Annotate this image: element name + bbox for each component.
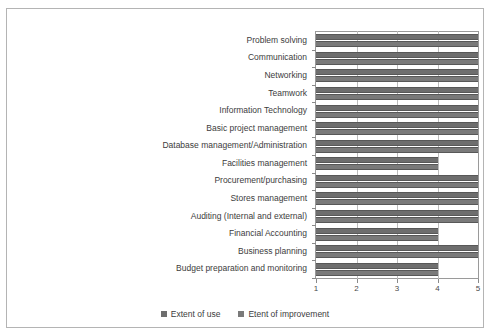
- bar: [316, 182, 478, 188]
- category-label: Networking: [264, 70, 307, 80]
- category-label: Information Technology: [219, 105, 307, 115]
- bar: [316, 199, 478, 205]
- bar-group: [316, 190, 478, 208]
- bar-rows: [316, 32, 478, 278]
- legend-swatch-icon: [238, 311, 244, 317]
- bar-group: [316, 225, 478, 243]
- bar-group: [316, 260, 478, 278]
- bar-group: [316, 32, 478, 50]
- chart-screenshot: Problem solvingCommunicationNetworkingTe…: [0, 0, 490, 336]
- category-label: Budget preparation and monitoring: [176, 263, 307, 273]
- x-axis-tick: [357, 279, 358, 283]
- category-label: Stores management: [230, 193, 307, 203]
- x-axis-tick-label: 1: [314, 284, 318, 293]
- chart-legend: Extent of useEtent of improvement: [7, 309, 483, 319]
- category-label: Database management/Administration: [162, 140, 307, 150]
- bar: [316, 147, 478, 153]
- category-label: Basic project management: [206, 123, 307, 133]
- x-axis-tick: [478, 279, 479, 283]
- bar-group: [316, 208, 478, 226]
- bar-group: [316, 243, 478, 261]
- x-axis-tick-label: 5: [476, 284, 480, 293]
- category-label: Communication: [248, 52, 307, 62]
- category-label: Teamwork: [268, 88, 307, 98]
- x-axis-tick: [316, 279, 317, 283]
- figure-frame: Problem solvingCommunicationNetworkingTe…: [6, 8, 484, 328]
- legend-label: Extent of use: [171, 309, 221, 319]
- bar: [316, 112, 478, 118]
- bar-group: [316, 102, 478, 120]
- x-axis-tick: [438, 279, 439, 283]
- bar: [316, 59, 478, 65]
- legend-swatch-icon: [161, 311, 167, 317]
- x-axis-tick-label: 4: [435, 284, 439, 293]
- bar: [316, 252, 478, 258]
- bar: [316, 217, 478, 223]
- category-label: Business planning: [238, 246, 307, 256]
- plot-area: 12345: [315, 31, 479, 279]
- bar-group: [316, 137, 478, 155]
- bar: [316, 270, 438, 276]
- bar: [316, 41, 478, 47]
- category-label: Auditing (Internal and external): [191, 211, 307, 221]
- bar-group: [316, 173, 478, 191]
- legend-item[interactable]: Extent of use: [161, 309, 221, 319]
- bar: [316, 164, 438, 170]
- category-label: Problem solving: [247, 35, 307, 45]
- category-label: Financial Accounting: [229, 228, 307, 238]
- x-axis-tick-label: 3: [395, 284, 399, 293]
- category-axis-labels: Problem solvingCommunicationNetworkingTe…: [15, 31, 311, 279]
- bar: [316, 235, 438, 241]
- bar-group: [316, 50, 478, 68]
- bar-group: [316, 155, 478, 173]
- bar-group: [316, 85, 478, 103]
- bar: [316, 76, 478, 82]
- bar: [316, 94, 478, 100]
- bar: [316, 129, 478, 135]
- legend-label: Etent of improvement: [248, 309, 329, 319]
- x-axis-tick-label: 2: [354, 284, 358, 293]
- legend-item[interactable]: Etent of improvement: [238, 309, 329, 319]
- bar-group: [316, 120, 478, 138]
- bar-group: [316, 67, 478, 85]
- category-label: Procurement/purchasing: [214, 175, 307, 185]
- category-label: Facilities management: [222, 158, 307, 168]
- x-axis-tick: [397, 279, 398, 283]
